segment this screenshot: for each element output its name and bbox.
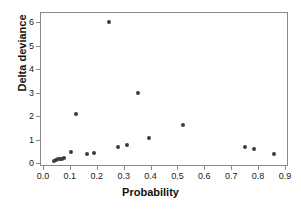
x-axis-tick xyxy=(124,166,125,170)
x-axis-tick xyxy=(285,166,286,170)
y-axis-label: Delta deviance xyxy=(16,0,28,113)
data-point xyxy=(107,20,111,24)
x-axis-tick-label: 0.8 xyxy=(252,171,265,181)
data-point xyxy=(62,156,66,160)
x-axis-tick xyxy=(177,166,178,170)
x-axis-tick xyxy=(70,166,71,170)
x-axis-tick-label: 0.5 xyxy=(171,171,184,181)
x-axis-tick xyxy=(151,166,152,170)
data-point xyxy=(252,147,256,151)
x-axis-tick xyxy=(97,166,98,170)
x-axis-tick xyxy=(204,166,205,170)
x-axis-tick-label: 0.4 xyxy=(144,171,157,181)
data-point xyxy=(181,123,185,127)
y-axis-tick-label: 1 xyxy=(24,135,34,145)
x-axis-tick xyxy=(231,166,232,170)
x-axis-label: Probability xyxy=(0,186,301,198)
y-axis-tick xyxy=(36,69,40,70)
data-point xyxy=(74,112,78,116)
data-point xyxy=(92,151,96,155)
data-point xyxy=(69,150,73,154)
plot-area xyxy=(40,12,288,166)
y-axis-tick xyxy=(36,22,40,23)
data-point xyxy=(85,152,89,156)
data-point xyxy=(243,145,247,149)
x-axis-tick-label: 0.2 xyxy=(91,171,104,181)
data-point xyxy=(147,136,151,140)
data-point xyxy=(272,152,276,156)
y-axis-tick xyxy=(36,93,40,94)
x-axis-tick-label: 0.9 xyxy=(279,171,292,181)
y-axis-tick xyxy=(36,140,40,141)
scatter-plot-figure: 0.00.10.20.30.40.50.60.70.80.90123456 Pr… xyxy=(0,0,301,211)
y-axis-tick xyxy=(36,46,40,47)
y-axis-tick xyxy=(36,163,40,164)
x-axis-tick xyxy=(258,166,259,170)
y-axis-tick-label: 0 xyxy=(24,158,34,168)
x-axis-tick-label: 0.6 xyxy=(198,171,211,181)
x-axis-tick-label: 0.0 xyxy=(37,171,50,181)
data-point xyxy=(125,143,129,147)
x-axis-tick xyxy=(43,166,44,170)
data-point xyxy=(136,91,140,95)
y-axis-tick xyxy=(36,116,40,117)
x-axis-tick-label: 0.1 xyxy=(64,171,77,181)
data-point xyxy=(116,145,120,149)
x-axis-tick-label: 0.3 xyxy=(117,171,130,181)
x-axis-tick-label: 0.7 xyxy=(225,171,238,181)
